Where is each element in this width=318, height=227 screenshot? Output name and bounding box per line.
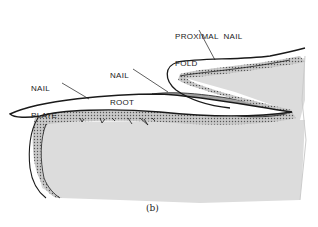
label-line: NAIL bbox=[110, 71, 134, 80]
label-line: PLATE bbox=[31, 111, 57, 120]
figure-caption: (b) bbox=[146, 203, 159, 213]
label-line: PROXIMAL NAIL bbox=[175, 32, 242, 41]
label-line: ROOT bbox=[110, 98, 134, 107]
label-nail-plate: NAIL PLATE bbox=[31, 66, 57, 138]
label-nail-root: NAIL ROOT bbox=[110, 53, 134, 125]
nail-anatomy-diagram: PROXIMAL NAIL FOLD NAIL ROOT NAIL PLATE … bbox=[0, 0, 318, 227]
leader-nail-root bbox=[133, 69, 168, 92]
label-line: FOLD bbox=[175, 59, 242, 68]
leader-nail-plate bbox=[62, 83, 89, 99]
label-line: NAIL bbox=[31, 84, 57, 93]
label-proximal-nail-fold: PROXIMAL NAIL FOLD bbox=[175, 14, 242, 86]
dermis-region bbox=[36, 58, 305, 203]
